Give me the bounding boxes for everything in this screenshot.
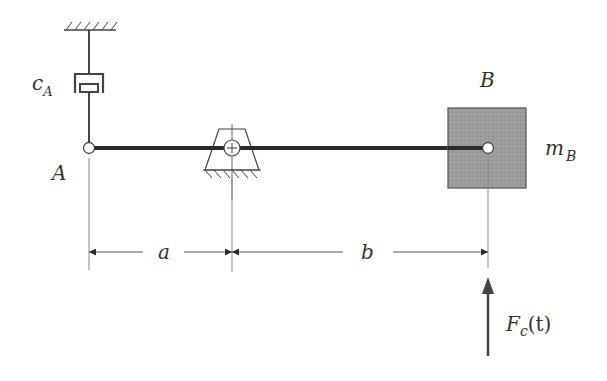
force-label: Fc(t): [505, 312, 551, 339]
joint-b-icon: [483, 143, 494, 154]
damper-label: cA: [32, 71, 53, 99]
ground-top-icon: [64, 22, 117, 30]
joint-a-icon: [84, 143, 95, 154]
dimension-a-label: a: [158, 240, 170, 264]
mass-label: mB: [545, 136, 576, 164]
point-b-label: B: [479, 68, 495, 92]
damper-icon: [75, 30, 103, 142]
dimension-b-label: b: [361, 240, 374, 264]
force-arrow-icon: [482, 277, 494, 356]
point-a-label: A: [50, 161, 66, 185]
mechanical-diagram: cA A B mB a: [0, 0, 607, 381]
dimension-b: b: [232, 240, 488, 264]
extension-lines: [89, 158, 488, 272]
dimension-a: a: [89, 240, 232, 264]
